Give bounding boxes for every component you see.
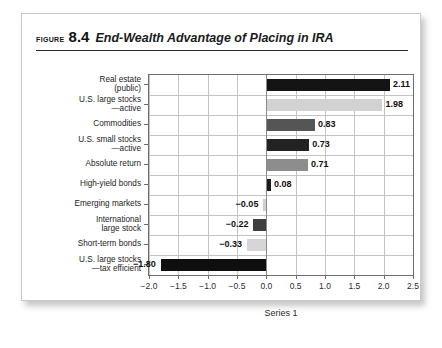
- y-tick-mark: [144, 204, 148, 205]
- category-label: U.S. small stocks —active: [29, 135, 141, 154]
- x-tick-mark: [296, 275, 297, 279]
- category-label: U.S. large stocks —active: [29, 95, 141, 114]
- category-label: International large stock: [29, 215, 141, 234]
- y-tick-mark: [144, 184, 148, 185]
- x-tick-label: 1.0: [319, 281, 331, 291]
- bar-value-label: 0.83: [318, 119, 336, 129]
- bar: [253, 219, 266, 231]
- x-tick-label: 1.5: [348, 281, 360, 291]
- y-gridline: [149, 95, 413, 96]
- x-tick-label: 2.0: [378, 281, 390, 291]
- figure-title: Figure8.4End-Wealth Advantage of Placing…: [36, 28, 408, 51]
- y-gridline: [149, 115, 413, 116]
- category-label: Real estate (public): [29, 75, 141, 94]
- x-tick-mark: [384, 275, 385, 279]
- plot-inner: [149, 75, 413, 275]
- x-tick-label: −0.5: [229, 281, 246, 291]
- bar-value-label: 0.08: [274, 179, 292, 189]
- category-label: Commodities: [29, 119, 141, 128]
- y-tick-mark: [144, 84, 148, 85]
- bar-value-label: −0.22: [226, 219, 249, 229]
- x-axis-label: Series 1: [148, 308, 414, 318]
- y-gridline: [149, 235, 413, 236]
- y-tick-mark: [144, 164, 148, 165]
- x-tick-mark: [208, 275, 209, 279]
- bar-value-label: 1.98: [385, 99, 403, 109]
- x-tick-label: 0.0: [260, 281, 272, 291]
- bar-value-label: 0.73: [312, 139, 330, 149]
- figure-number: 8.4: [69, 28, 90, 45]
- x-gridline: [266, 75, 267, 275]
- x-tick-mark: [413, 275, 414, 279]
- bar-value-label: −0.33: [219, 239, 242, 249]
- category-label: High-yield bonds: [29, 179, 141, 188]
- category-label: U.S. large stocks —tax efficient: [29, 255, 141, 274]
- x-tick-label: −1.0: [199, 281, 216, 291]
- bar-value-label: 2.11: [393, 79, 410, 89]
- y-gridline: [149, 135, 413, 136]
- bar: [161, 259, 267, 271]
- x-tick-label: −1.5: [170, 281, 187, 291]
- x-tick-mark: [149, 275, 150, 279]
- bar-chart: −2.0−1.5−1.0−0.50.00.51.01.52.02.5 Serie…: [32, 62, 412, 290]
- y-tick-mark: [144, 224, 148, 225]
- y-tick-mark: [144, 104, 148, 105]
- category-label: Absolute return: [29, 159, 141, 168]
- x-tick-mark: [237, 275, 238, 279]
- bar-value-label: 0.71: [311, 159, 329, 169]
- y-gridline: [149, 175, 413, 176]
- x-tick-mark: [325, 275, 326, 279]
- x-tick-label: −2.0: [141, 281, 158, 291]
- y-tick-mark: [144, 124, 148, 125]
- figure-label: Figure: [36, 33, 65, 44]
- bar: [266, 139, 309, 151]
- y-tick-mark: [144, 244, 148, 245]
- y-tick-mark: [144, 144, 148, 145]
- y-gridline: [149, 195, 413, 196]
- category-label: Short-term bonds: [29, 239, 141, 248]
- y-gridline: [149, 215, 413, 216]
- bar-value-label: −0.05: [236, 199, 259, 209]
- plot-area: −2.0−1.5−1.0−0.50.00.51.01.52.02.5: [148, 74, 414, 276]
- x-tick-mark: [354, 275, 355, 279]
- bar: [266, 119, 315, 131]
- x-tick-mark: [178, 275, 179, 279]
- x-tick-label: 2.5: [407, 281, 419, 291]
- y-gridline: [149, 155, 413, 156]
- x-tick-label: 0.5: [290, 281, 302, 291]
- y-gridline: [149, 255, 413, 256]
- bar: [266, 99, 382, 111]
- figure-container: Figure8.4End-Wealth Advantage of Placing…: [21, 13, 421, 301]
- bar: [247, 239, 266, 251]
- bar: [266, 79, 390, 91]
- category-label: Emerging markets: [29, 199, 141, 208]
- figure-caption: End-Wealth Advantage of Placing in IRA: [95, 31, 333, 45]
- x-tick-mark: [266, 275, 267, 279]
- bar: [266, 159, 308, 171]
- bar-value-label: −1.80: [133, 259, 156, 269]
